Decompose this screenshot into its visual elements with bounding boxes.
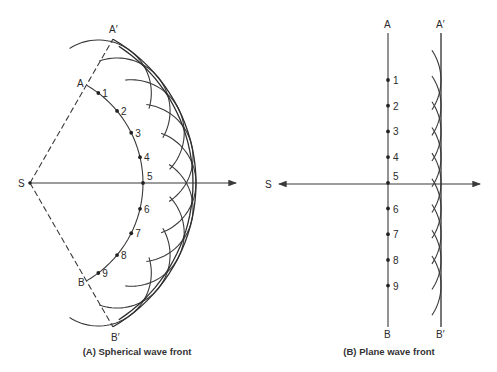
- point-label-plane: 5: [393, 171, 399, 182]
- wavefront-point-plane: [386, 232, 390, 236]
- caption-spherical: (A) Spherical wave front: [83, 346, 193, 357]
- label-b: B: [78, 277, 85, 288]
- point-label: 9: [102, 268, 108, 279]
- wavefront-point: [96, 91, 100, 95]
- caption-plane: (B) Plane wave front: [343, 346, 435, 357]
- point-label-plane: 8: [393, 255, 399, 266]
- wavelet-arc: [125, 80, 184, 170]
- wavelet-arc-plane: [432, 205, 441, 264]
- wavelet-arc-plane: [432, 153, 441, 212]
- label-b-prime-plane: B′: [436, 329, 445, 340]
- wavelet-arc: [70, 40, 152, 109]
- wavefront-point-plane: [386, 284, 390, 288]
- wavelet-arc: [125, 197, 184, 287]
- wavelet-arc-plane: [432, 102, 441, 161]
- point-label: 7: [135, 228, 141, 239]
- wavelet-arc-plane: [432, 76, 441, 135]
- wavefront-point: [115, 109, 119, 113]
- point-label-plane: 6: [393, 204, 399, 215]
- wavefront-point: [138, 207, 142, 211]
- wavelet-arc-plane: [432, 50, 441, 109]
- secondary-wavelets-plane: [432, 50, 441, 315]
- label-b-plane: B: [384, 329, 391, 340]
- wavefront-point-plane: [386, 181, 390, 185]
- source-label-a: S: [18, 178, 25, 189]
- wavelet-arc-plane: [432, 127, 441, 186]
- wavefront-point: [96, 271, 100, 275]
- wavelet-arc-plane: [432, 230, 441, 289]
- label-a: A: [77, 78, 84, 89]
- point-label-plane: 9: [393, 281, 399, 292]
- point-label: 2: [121, 106, 127, 117]
- label-a-prime: A′: [109, 24, 118, 35]
- spherical-wave-panel: 123456789 S A B A′ B′ (A) Spherical wave…: [18, 24, 236, 357]
- wavefront-point-plane: [386, 155, 390, 159]
- source-label-b: S: [265, 179, 272, 190]
- point-label: 6: [144, 204, 150, 215]
- wavefront-point-plane: [386, 130, 390, 134]
- wavelet-arc-plane: [432, 256, 441, 315]
- point-label: 1: [102, 88, 108, 99]
- point-label-plane: 7: [393, 229, 399, 240]
- wavefront-point: [138, 155, 142, 159]
- wavefront-point-plane: [386, 78, 390, 82]
- point-label-plane: 1: [393, 75, 399, 86]
- wavefront-point-plane: [386, 258, 390, 262]
- wavelet-arc: [99, 228, 170, 308]
- wavefront-point-plane: [386, 207, 390, 211]
- point-label: 5: [147, 171, 153, 182]
- point-label: 3: [135, 128, 141, 139]
- wavefront-point: [129, 131, 133, 135]
- label-a-plane: A: [384, 19, 391, 30]
- wavefront-points-b: 123456789: [386, 75, 399, 292]
- wavelet-arc-plane: [432, 179, 441, 238]
- wavefront-point-plane: [386, 104, 390, 108]
- wavefront-point: [129, 231, 133, 235]
- wavefront-point: [115, 253, 119, 257]
- wavefront-point: [141, 181, 145, 185]
- point-label: 4: [144, 152, 150, 163]
- point-label: 8: [121, 250, 127, 261]
- wavefront-figure: 123456789 S A B A′ B′ (A) Spherical wave…: [0, 0, 497, 372]
- point-label-plane: 2: [393, 101, 399, 112]
- source-point-a: [28, 181, 32, 185]
- label-b-prime: B′: [111, 332, 120, 343]
- plane-wave-panel: 123456789 S A B A′ B′ (B) Plane wave fro…: [265, 19, 480, 357]
- wavelet-arc: [99, 58, 170, 138]
- wavelet-arc: [70, 257, 152, 326]
- label-a-prime-plane: A′: [436, 19, 445, 30]
- point-label-plane: 3: [393, 126, 399, 137]
- point-label-plane: 4: [393, 152, 399, 163]
